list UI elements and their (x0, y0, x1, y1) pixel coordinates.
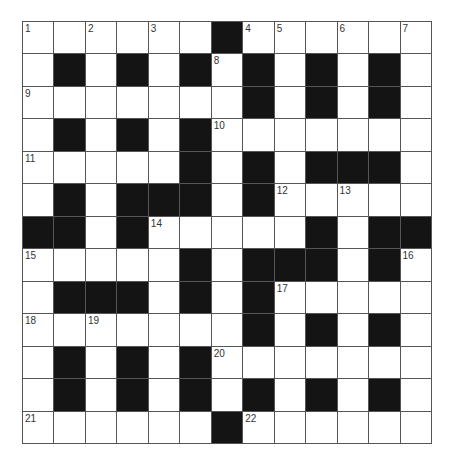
letter-cell[interactable] (400, 183, 431, 215)
letter-cell[interactable] (148, 86, 179, 118)
letter-cell[interactable] (368, 21, 399, 53)
letter-cell[interactable] (211, 183, 242, 215)
letter-cell[interactable] (368, 346, 399, 378)
letter-cell[interactable] (274, 216, 305, 248)
letter-cell[interactable] (22, 378, 53, 410)
letter-cell[interactable] (148, 378, 179, 410)
letter-cell[interactable] (337, 216, 368, 248)
letter-cell[interactable] (274, 86, 305, 118)
letter-cell[interactable] (148, 53, 179, 85)
letter-cell[interactable] (337, 53, 368, 85)
letter-cell[interactable] (274, 118, 305, 150)
letter-cell[interactable]: 6 (337, 21, 368, 53)
letter-cell[interactable] (53, 21, 84, 53)
letter-cell[interactable] (211, 248, 242, 280)
letter-cell[interactable] (337, 346, 368, 378)
letter-cell[interactable] (22, 53, 53, 85)
letter-cell[interactable]: 13 (337, 183, 368, 215)
letter-cell[interactable] (368, 183, 399, 215)
letter-cell[interactable]: 12 (274, 183, 305, 215)
letter-cell[interactable]: 3 (148, 21, 179, 53)
letter-cell[interactable] (85, 118, 116, 150)
letter-cell[interactable] (274, 411, 305, 443)
letter-cell[interactable] (305, 183, 336, 215)
letter-cell[interactable] (53, 411, 84, 443)
letter-cell[interactable] (400, 281, 431, 313)
letter-cell[interactable] (400, 53, 431, 85)
letter-cell[interactable]: 20 (211, 346, 242, 378)
letter-cell[interactable] (242, 346, 273, 378)
letter-cell[interactable] (85, 378, 116, 410)
letter-cell[interactable]: 8 (211, 53, 242, 85)
letter-cell[interactable] (305, 411, 336, 443)
letter-cell[interactable] (148, 248, 179, 280)
letter-cell[interactable] (337, 86, 368, 118)
letter-cell[interactable] (305, 21, 336, 53)
letter-cell[interactable] (400, 118, 431, 150)
letter-cell[interactable] (53, 248, 84, 280)
letter-cell[interactable] (211, 313, 242, 345)
letter-cell[interactable] (400, 346, 431, 378)
letter-cell[interactable] (116, 411, 147, 443)
letter-cell[interactable] (116, 21, 147, 53)
letter-cell[interactable] (53, 86, 84, 118)
letter-cell[interactable] (337, 118, 368, 150)
letter-cell[interactable] (53, 313, 84, 345)
letter-cell[interactable] (116, 313, 147, 345)
letter-cell[interactable] (337, 378, 368, 410)
letter-cell[interactable] (85, 411, 116, 443)
letter-cell[interactable] (211, 151, 242, 183)
letter-cell[interactable] (85, 151, 116, 183)
letter-cell[interactable]: 10 (211, 118, 242, 150)
letter-cell[interactable] (85, 183, 116, 215)
letter-cell[interactable] (85, 86, 116, 118)
letter-cell[interactable] (179, 21, 210, 53)
letter-cell[interactable] (400, 313, 431, 345)
letter-cell[interactable]: 22 (242, 411, 273, 443)
letter-cell[interactable] (368, 411, 399, 443)
letter-cell[interactable]: 17 (274, 281, 305, 313)
letter-cell[interactable] (148, 313, 179, 345)
letter-cell[interactable] (274, 346, 305, 378)
letter-cell[interactable] (400, 86, 431, 118)
letter-cell[interactable] (85, 346, 116, 378)
letter-cell[interactable]: 15 (22, 248, 53, 280)
letter-cell[interactable]: 18 (22, 313, 53, 345)
letter-cell[interactable] (337, 411, 368, 443)
letter-cell[interactable] (179, 411, 210, 443)
letter-cell[interactable] (305, 346, 336, 378)
letter-cell[interactable] (179, 313, 210, 345)
letter-cell[interactable] (368, 281, 399, 313)
letter-cell[interactable] (85, 248, 116, 280)
letter-cell[interactable]: 19 (85, 313, 116, 345)
letter-cell[interactable] (305, 118, 336, 150)
letter-cell[interactable] (85, 216, 116, 248)
letter-cell[interactable] (400, 378, 431, 410)
letter-cell[interactable] (242, 216, 273, 248)
letter-cell[interactable] (274, 378, 305, 410)
letter-cell[interactable] (53, 151, 84, 183)
letter-cell[interactable]: 11 (22, 151, 53, 183)
letter-cell[interactable] (22, 118, 53, 150)
letter-cell[interactable] (337, 281, 368, 313)
letter-cell[interactable] (116, 151, 147, 183)
letter-cell[interactable] (22, 183, 53, 215)
letter-cell[interactable] (400, 151, 431, 183)
letter-cell[interactable] (179, 216, 210, 248)
letter-cell[interactable] (148, 118, 179, 150)
letter-cell[interactable]: 4 (242, 21, 273, 53)
letter-cell[interactable] (179, 86, 210, 118)
letter-cell[interactable] (22, 281, 53, 313)
letter-cell[interactable]: 5 (274, 21, 305, 53)
letter-cell[interactable]: 1 (22, 21, 53, 53)
letter-cell[interactable]: 14 (148, 216, 179, 248)
letter-cell[interactable] (148, 151, 179, 183)
letter-cell[interactable] (85, 53, 116, 85)
letter-cell[interactable] (274, 313, 305, 345)
letter-cell[interactable]: 21 (22, 411, 53, 443)
letter-cell[interactable] (368, 118, 399, 150)
letter-cell[interactable] (337, 248, 368, 280)
letter-cell[interactable] (148, 281, 179, 313)
letter-cell[interactable]: 9 (22, 86, 53, 118)
letter-cell[interactable] (116, 248, 147, 280)
